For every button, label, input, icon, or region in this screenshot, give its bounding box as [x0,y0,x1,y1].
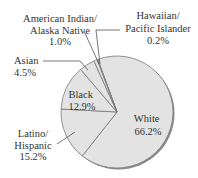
label-latino-value: 15.2% [19,151,46,162]
pie-chart: White 66.2% Black 12.9% Latino/ Hispanic… [0,0,198,178]
label-latino-line2: Hispanic [14,140,52,151]
label-asian-value: 4.5% [14,67,36,78]
pie-slices [61,56,173,168]
label-black: Black 12.9% [68,89,95,112]
label-alaska-native: Alaska Native [30,25,90,36]
label-hawaiian-value: 0.2% [147,35,169,46]
label-american-indian: American Indian/ [23,13,97,24]
pie-chart-svg: White 66.2% Black 12.9% Latino/ Hispanic… [0,0,198,178]
label-american-indian-value: 1.0% [49,36,71,47]
label-hawaiian: Hawaiian/ [136,10,179,21]
label-latino: Latino/ [18,128,48,139]
label-asian: Asian [14,55,39,66]
label-pacific-islander: Pacific Islander [125,23,191,34]
